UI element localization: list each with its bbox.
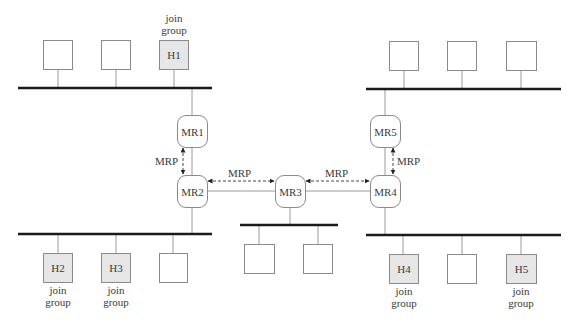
host-top-left-2 xyxy=(101,40,131,70)
router-mr3: MR3 xyxy=(275,175,306,208)
host-h1-label: H1 xyxy=(167,49,180,61)
mrp-label-mr3-mr4: MRP xyxy=(325,167,348,179)
router-mr2: MR2 xyxy=(177,175,208,208)
h2-join-group-note: join group xyxy=(38,284,78,308)
host-bottom-right-2 xyxy=(447,254,477,284)
mrp-label-mr5-mr4: MRP xyxy=(397,155,420,167)
host-top-right-3 xyxy=(506,41,537,71)
host-top-right-2 xyxy=(447,41,477,71)
router-mr5: MR5 xyxy=(370,115,401,148)
host-bottom-left-3 xyxy=(159,253,188,283)
host-h5: H5 xyxy=(506,254,537,284)
h5-join-group-note: join group xyxy=(501,285,541,309)
host-middle-2 xyxy=(303,244,333,274)
h4-join-group-note: join group xyxy=(384,285,424,309)
host-h1: H1 xyxy=(159,40,189,70)
router-mr1: MR1 xyxy=(177,115,208,148)
host-h3: H3 xyxy=(101,253,131,283)
h3-join-group-note: join group xyxy=(96,284,136,308)
host-middle-1 xyxy=(244,244,275,274)
host-top-right-1 xyxy=(389,41,419,71)
host-h2: H2 xyxy=(43,253,73,283)
router-links xyxy=(192,88,385,235)
host-h4: H4 xyxy=(389,254,419,284)
mrp-label-mr2-mr3: MRP xyxy=(228,167,251,179)
host-top-left-1 xyxy=(43,40,73,70)
multicast-network-diagram xyxy=(0,0,579,322)
h1-join-group-note: join group xyxy=(154,12,194,36)
router-mr4: MR4 xyxy=(370,175,401,208)
mrp-label-mr1-mr2: MRP xyxy=(155,155,178,167)
